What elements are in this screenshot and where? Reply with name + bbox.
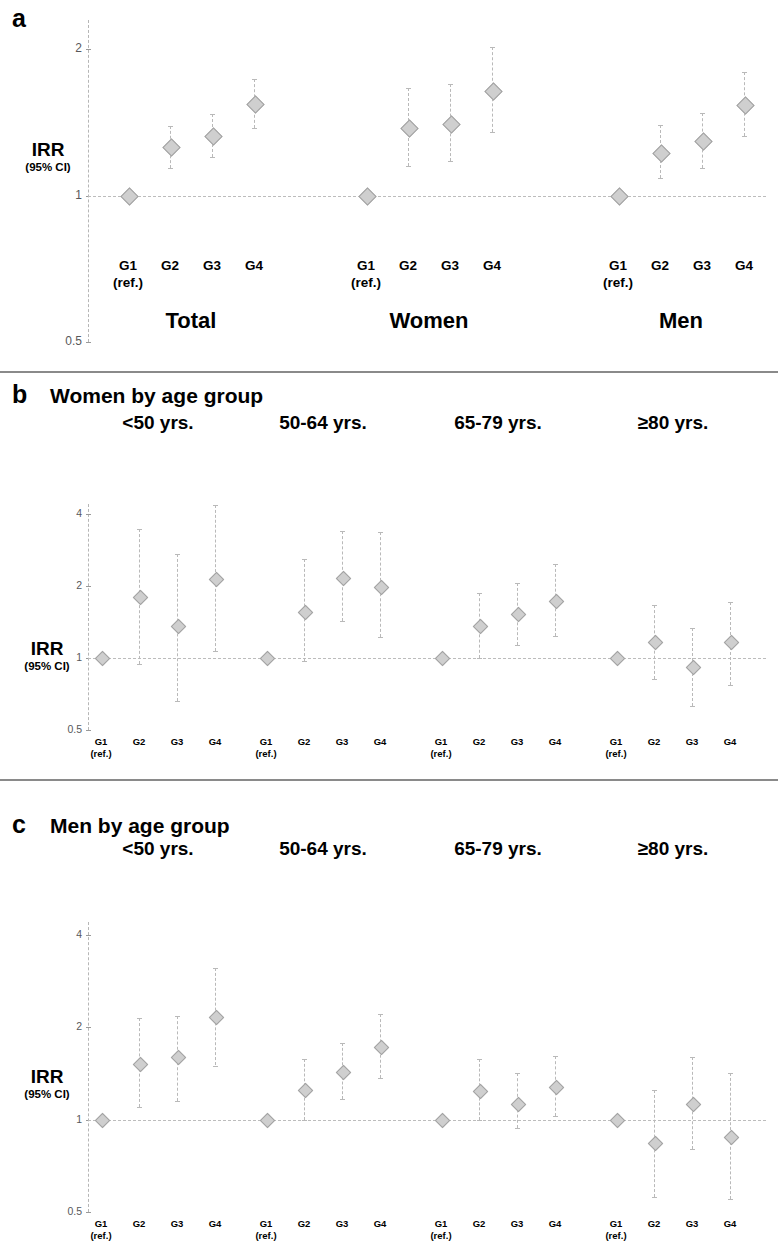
confidence-interval-cap	[137, 664, 142, 665]
x-axis-category-label: G4	[354, 1218, 406, 1230]
group-label: <50 yrs.	[68, 838, 248, 860]
data-point-marker	[297, 1083, 313, 1099]
confidence-interval-cap	[690, 706, 695, 707]
confidence-interval-cap	[553, 564, 558, 565]
y-axis-tick-label: 0.5	[42, 1205, 82, 1217]
reference-note: (ref.)	[590, 748, 642, 760]
data-point-marker	[400, 120, 418, 138]
reference-line	[88, 1120, 766, 1121]
y-axis-tick	[86, 1212, 91, 1213]
confidence-interval-cap	[175, 1016, 180, 1017]
confidence-interval-cap	[302, 559, 307, 560]
y-axis-tick-label: 2	[42, 41, 82, 55]
confidence-interval-cap	[515, 1128, 520, 1129]
confidence-interval-cap	[658, 178, 663, 179]
panel-b-letter: b	[12, 380, 27, 409]
confidence-interval-cap	[652, 605, 657, 606]
y-axis-line	[88, 504, 89, 730]
y-axis-tick-label: 4	[42, 507, 82, 519]
y-axis-tick-label: 2	[42, 579, 82, 591]
confidence-interval-cap	[137, 1107, 142, 1108]
reference-note: (ref.)	[415, 1230, 467, 1242]
panel-divider-a-b	[0, 371, 778, 373]
data-point-marker	[736, 96, 754, 114]
data-point-marker	[548, 1080, 564, 1096]
data-point-marker	[358, 188, 376, 206]
group-label: 65-79 yrs.	[408, 412, 588, 434]
panel-a: a IRR (95% CI) 0.512G1(ref.)G2G3G4TotalG…	[0, 0, 778, 372]
y-axis-label-sub: (95% CI)	[12, 161, 84, 173]
confidence-interval-cap	[658, 125, 663, 126]
confidence-interval-cap	[652, 1197, 657, 1198]
confidence-interval-cap	[448, 161, 453, 162]
panel-a-y-axis-label: IRR (95% CI)	[12, 140, 84, 173]
data-point-marker	[685, 1096, 701, 1112]
data-point-marker	[246, 95, 264, 113]
confidence-interval-cap	[137, 529, 142, 530]
confidence-interval-cap	[213, 651, 218, 652]
data-point-marker	[472, 1084, 488, 1100]
confidence-interval-cap	[477, 1120, 482, 1121]
y-axis-line	[88, 922, 89, 1212]
confidence-interval-cap	[168, 126, 173, 127]
confidence-interval-cap	[340, 531, 345, 532]
confidence-interval-cap	[742, 72, 747, 73]
confidence-interval-cap	[378, 532, 383, 533]
confidence-interval-cap	[515, 583, 520, 584]
confidence-interval-cap	[477, 658, 482, 659]
x-axis-category-label: G4	[529, 736, 581, 748]
panel-b-plot-area: 0.5124G1(ref.)G2G3G4<50 yrs.G1(ref.)G2G3…	[88, 504, 766, 730]
data-point-marker	[694, 132, 712, 150]
confidence-interval-cap	[728, 1199, 733, 1200]
confidence-interval-cap	[340, 1099, 345, 1100]
confidence-interval-cap	[137, 1018, 142, 1019]
group-label: Men	[591, 308, 771, 334]
group-label: Women	[339, 308, 519, 334]
confidence-interval-cap	[252, 79, 257, 80]
y-axis-label-main: IRR	[10, 1067, 84, 1087]
confidence-interval-cap	[477, 1059, 482, 1060]
confidence-interval-cap	[210, 114, 215, 115]
data-point-marker	[685, 660, 701, 676]
data-point-marker	[208, 1009, 224, 1025]
confidence-interval-cap	[490, 47, 495, 48]
x-axis-category-label: G4	[704, 1218, 756, 1230]
data-point-marker	[120, 188, 138, 206]
confidence-interval-cap	[175, 1101, 180, 1102]
y-axis-tick-label: 1	[42, 651, 82, 663]
y-axis-label-main: IRR	[12, 140, 84, 160]
panel-c: c Men by age group IRR (95% CI) 0.5124G1…	[0, 782, 778, 1256]
panel-a-letter: a	[12, 4, 25, 33]
confidence-interval-cap	[652, 679, 657, 680]
data-point-marker	[610, 188, 628, 206]
reference-note: (ref.)	[240, 1230, 292, 1242]
x-axis-category-label: G4	[189, 736, 241, 748]
confidence-interval-cap	[340, 1043, 345, 1044]
confidence-interval-cap	[406, 88, 411, 89]
confidence-interval-cap	[448, 84, 453, 85]
y-axis-tick-label: 1	[42, 1113, 82, 1125]
x-axis-category-label: G4	[718, 258, 770, 275]
confidence-interval-cap	[700, 168, 705, 169]
confidence-interval-cap	[515, 1073, 520, 1074]
confidence-interval-cap	[477, 593, 482, 594]
confidence-interval-cap	[302, 661, 307, 662]
data-point-marker	[609, 1113, 625, 1129]
data-point-marker	[373, 580, 389, 596]
panel-b-title: Women by age group	[50, 384, 263, 408]
reference-note: (ref.)	[75, 1230, 127, 1242]
group-label: Total	[101, 308, 281, 334]
panel-b: b Women by age group IRR (95% CI) 0.5124…	[0, 374, 778, 770]
y-axis-tick	[86, 514, 91, 515]
reference-line	[88, 196, 766, 197]
confidence-interval-cap	[553, 1056, 558, 1057]
x-axis-category-label: G4	[189, 1218, 241, 1230]
y-axis-tick-label: 4	[42, 928, 82, 940]
y-axis-tick-label: 2	[42, 1020, 82, 1032]
reference-note: (ref.)	[592, 275, 644, 292]
confidence-interval-cap	[406, 166, 411, 167]
confidence-interval-cap	[213, 505, 218, 506]
data-point-marker	[472, 618, 488, 634]
data-point-marker	[208, 572, 224, 588]
confidence-interval-cap	[490, 132, 495, 133]
